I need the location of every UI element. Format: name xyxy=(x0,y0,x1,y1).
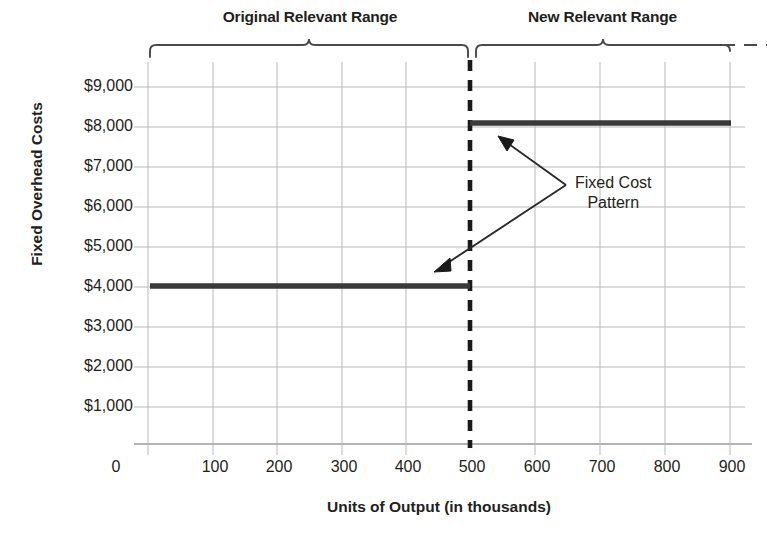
annotation-line-2: Pattern xyxy=(575,193,651,213)
x-tick-300: 300 xyxy=(314,458,374,476)
y-tick-8000: $8,000 xyxy=(41,117,133,135)
x-axis-title: Units of Output (in thousands) xyxy=(148,498,730,516)
x-tick-600: 600 xyxy=(507,458,567,476)
chart-canvas: Original Relevant Range New Relevant Ran… xyxy=(0,0,767,542)
fixed-cost-pattern-annotation: Fixed Cost Pattern xyxy=(575,173,651,213)
vertical-gridlines xyxy=(148,62,730,455)
new-relevant-range-label: New Relevant Range xyxy=(475,8,730,26)
original-relevant-range-label: Original Relevant Range xyxy=(150,8,470,26)
x-tick-0: 0 xyxy=(86,458,146,476)
x-tick-700: 700 xyxy=(572,458,632,476)
x-tick-500: 500 xyxy=(442,458,502,476)
original-relevant-range-brace xyxy=(150,39,468,57)
x-axis-tick-labels: 0 100 200 300 400 500 600 700 800 900 xyxy=(0,458,767,484)
y-tick-3000: $3,000 xyxy=(41,317,133,335)
y-tick-4000: $4,000 xyxy=(41,277,133,295)
y-tick-9000: $9,000 xyxy=(41,77,133,95)
x-tick-100: 100 xyxy=(185,458,245,476)
fixed-cost-pattern-arrow xyxy=(434,136,566,272)
horizontal-gridlines xyxy=(134,87,745,407)
y-tick-7000: $7,000 xyxy=(41,157,133,175)
x-tick-200: 200 xyxy=(249,458,309,476)
y-tick-2000: $2,000 xyxy=(41,357,133,375)
x-tick-800: 800 xyxy=(637,458,697,476)
new-relevant-range-brace xyxy=(476,39,730,57)
x-tick-900: 900 xyxy=(702,458,762,476)
y-tick-1000: $1,000 xyxy=(41,397,133,415)
y-tick-5000: $5,000 xyxy=(41,237,133,255)
annotation-line-1: Fixed Cost xyxy=(575,173,651,193)
x-tick-400: 400 xyxy=(378,458,438,476)
y-tick-6000: $6,000 xyxy=(41,197,133,215)
